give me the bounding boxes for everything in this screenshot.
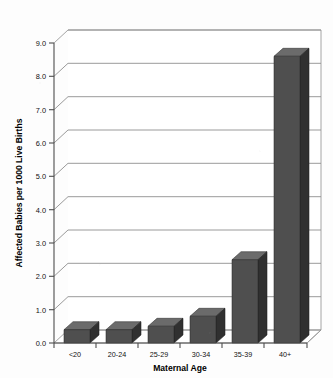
y-tickmarks-group	[49, 43, 54, 343]
x-tick-label: 30-34	[192, 350, 210, 359]
y-tick-label: 1.0	[36, 306, 46, 315]
plot-depth-edge-topleft	[54, 30, 68, 43]
y-tick-label: 9.0	[36, 39, 46, 48]
bar-40-plus[interactable]	[274, 48, 309, 343]
bar-30-34[interactable]	[190, 308, 225, 343]
x-axis-title: Maternal Age	[153, 363, 207, 373]
x-tick-label: 35-39	[234, 350, 252, 359]
gridline-8-depth	[54, 63, 68, 76]
y-axis-title: Affected Babies per 1000 Live Births	[14, 118, 24, 267]
y-tick-label: 5.0	[36, 172, 46, 181]
gridline-4-depth	[54, 197, 68, 210]
gridline-5-depth	[54, 163, 68, 176]
x-tickmarks-group	[54, 343, 307, 348]
x-tick-label: 25-29	[150, 350, 168, 359]
y-tick-label: 6.0	[36, 139, 46, 148]
x-tick-label: 20-24	[108, 350, 126, 359]
gridline-2-depth	[54, 263, 68, 276]
bar-20-24[interactable]	[106, 322, 141, 343]
bar-35-39[interactable]	[232, 252, 267, 343]
y-tick-label: 3.0	[36, 239, 46, 248]
y-tick-label: 0.0	[36, 339, 46, 348]
y-tick-label: 2.0	[36, 272, 46, 281]
y-tick-label: 8.0	[36, 72, 46, 81]
gridline-7-depth	[54, 97, 68, 110]
y-tick-labels-group: 9.0 8.0 7.0 6.0 5.0 4.0 3.0 2.0 1.0 0.0	[36, 39, 46, 348]
bar-lt20[interactable]	[64, 322, 99, 343]
gridline-6-depth	[54, 130, 68, 143]
x-tick-labels-group: <20 20-24 25-29 30-34 35-39 40+	[69, 350, 291, 359]
y-tick-label: 4.0	[36, 206, 46, 215]
bar-chart-figure: 9.0 8.0 7.0 6.0 5.0 4.0 3.0 2.0 1.0 0.0 …	[0, 0, 333, 378]
x-tick-label: 40+	[279, 350, 291, 359]
bar-25-29[interactable]	[148, 318, 183, 343]
x-tick-label: <20	[69, 350, 81, 359]
y-tick-label: 7.0	[36, 106, 46, 115]
gridline-1-depth	[54, 297, 68, 310]
chart-container: 9.0 8.0 7.0 6.0 5.0 4.0 3.0 2.0 1.0 0.0 …	[0, 0, 333, 378]
gridline-3-depth	[54, 230, 68, 243]
